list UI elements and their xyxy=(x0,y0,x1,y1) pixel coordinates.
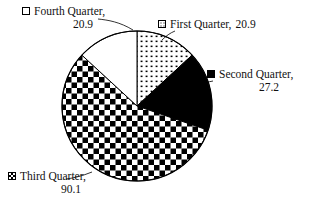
legend-value-second-quarter: 27.2 xyxy=(207,81,321,94)
legend-label-fourth-quarter: Fourth Quarter, xyxy=(34,5,105,18)
legend-label-first-quarter: First Quarter, xyxy=(170,18,232,31)
pie-chart-figure: Fourth Quarter, 20.9 First Quarter, 20.9… xyxy=(0,0,321,207)
pie-slices xyxy=(62,31,212,181)
white-square-swatch-icon xyxy=(22,7,30,15)
legend-item-fourth-quarter[interactable]: Fourth Quarter, 20.9 xyxy=(22,5,134,30)
legend-value-first-quarter: 20.9 xyxy=(236,18,256,31)
legend-item-first-quarter[interactable]: First Quarter, 20.9 xyxy=(158,18,318,31)
black-square-swatch-icon xyxy=(207,70,215,78)
legend-label-second-quarter: Second Quarter, xyxy=(219,68,293,81)
legend-value-fourth-quarter: 20.9 xyxy=(22,18,134,31)
legend-item-third-quarter[interactable]: Third Quarter, 90.1 xyxy=(8,170,126,195)
checker-square-swatch-icon xyxy=(8,172,16,180)
legend-label-third-quarter: Third Quarter, xyxy=(20,170,86,183)
legend-value-third-quarter: 90.1 xyxy=(8,183,126,196)
dotted-square-swatch-icon xyxy=(158,20,166,28)
legend-item-second-quarter[interactable]: Second Quarter, 27.2 xyxy=(207,68,321,93)
